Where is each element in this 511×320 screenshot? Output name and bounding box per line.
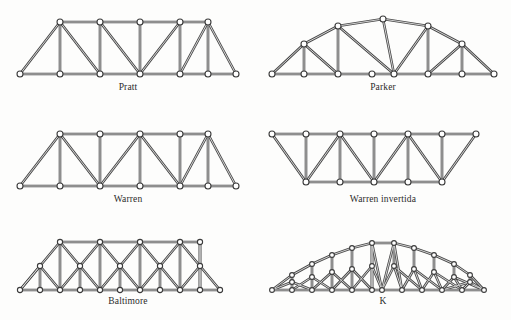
- truss-joint-l4: [177, 71, 183, 77]
- truss-joint-l9: [197, 287, 202, 292]
- truss-joint-u10: [468, 273, 473, 278]
- truss-member-core: [180, 266, 200, 290]
- truss-diagram-baltimore: [8, 230, 248, 298]
- truss-joint-l8: [177, 287, 182, 292]
- truss-joint-k8: [432, 270, 437, 275]
- truss-joint-u8: [432, 253, 437, 258]
- truss-joint-l3: [369, 71, 375, 77]
- truss-joint-k2: [310, 275, 315, 280]
- truss-member-core: [20, 266, 40, 290]
- truss-member-core: [60, 22, 100, 74]
- truss-joint-u4: [177, 239, 182, 244]
- truss-joint-m4: [157, 263, 162, 268]
- truss-joint-l2: [57, 287, 62, 292]
- truss-joint-l2: [97, 183, 103, 189]
- truss-joint-l1: [57, 183, 63, 189]
- truss-member-core: [340, 134, 374, 182]
- truss-member-core: [292, 264, 312, 275]
- truss-svg-parker: [262, 8, 504, 84]
- truss-joint-l3: [330, 288, 335, 293]
- truss-svg-warren: [8, 120, 248, 196]
- truss-member-core: [120, 242, 140, 266]
- truss-member-core: [40, 242, 60, 266]
- truss-joint-u3: [330, 253, 335, 258]
- truss-joint-l3: [137, 183, 143, 189]
- truss-member-core: [414, 248, 434, 255]
- truss-joint-l6: [137, 287, 142, 292]
- truss-member-core: [80, 266, 100, 290]
- truss-member-core: [428, 26, 462, 44]
- truss-joint-l5: [370, 288, 375, 293]
- truss-member-core: [180, 22, 208, 74]
- truss-svg-pratt: [8, 8, 248, 84]
- truss-joint-u0: [269, 131, 275, 137]
- truss-joint-l7: [400, 288, 405, 293]
- truss-joint-u1: [57, 239, 62, 244]
- truss-member-core: [60, 266, 80, 290]
- truss-joint-l0: [17, 183, 23, 189]
- truss-diagram-warren: [8, 120, 248, 196]
- truss-member-core: [60, 134, 100, 186]
- truss-member-core: [20, 22, 60, 74]
- truss-joint-k5: [370, 264, 375, 269]
- truss-member-core: [352, 243, 372, 248]
- truss-joint-l3: [137, 71, 143, 77]
- truss-joint-l5: [205, 183, 211, 189]
- truss-joint-u3: [137, 239, 142, 244]
- truss-caption-warren: Warren: [8, 194, 248, 204]
- truss-joint-u2: [310, 262, 315, 267]
- truss-joint-l8: [420, 288, 425, 293]
- truss-joint-l1: [303, 179, 309, 185]
- truss-diagram-k: [262, 230, 504, 298]
- truss-joint-l4: [97, 287, 102, 292]
- truss-joint-l0: [17, 71, 23, 77]
- truss-caption-parker: Parker: [262, 82, 504, 92]
- truss-svg-warren-invertida: [262, 120, 504, 196]
- truss-member-core: [462, 44, 494, 74]
- truss-joint-l4: [391, 71, 397, 77]
- truss-joint-k1: [290, 280, 295, 285]
- truss-joint-l6: [459, 71, 465, 77]
- truss-member-core: [402, 269, 414, 290]
- truss-joint-l10: [460, 288, 465, 293]
- truss-joint-u5: [459, 41, 465, 47]
- truss-joint-u7: [412, 246, 417, 251]
- truss-joint-u9: [452, 262, 457, 267]
- truss-diagram-warren-invertida: [262, 120, 504, 196]
- truss-member-core: [160, 242, 180, 266]
- truss-member-core: [374, 134, 408, 182]
- truss-joint-u4: [177, 19, 183, 25]
- truss-joint-u2: [97, 19, 103, 25]
- truss-joint-u1: [290, 273, 295, 278]
- truss-caption-k: K: [262, 296, 504, 306]
- truss-joint-u2: [337, 131, 343, 137]
- truss-member-core: [208, 22, 236, 74]
- truss-member-core: [304, 44, 338, 74]
- truss-member-core: [180, 242, 200, 266]
- truss-joint-u4: [350, 246, 355, 251]
- truss-members-outline: [272, 243, 484, 290]
- truss-joint-l2: [335, 71, 341, 77]
- truss-member-core: [100, 266, 120, 290]
- truss-joint-k6: [392, 264, 397, 269]
- truss-member-core: [272, 44, 304, 74]
- truss-joint-l9: [440, 288, 445, 293]
- truss-member-core: [100, 242, 120, 266]
- truss-joint-u3: [380, 16, 386, 22]
- truss-joint-u1: [301, 41, 307, 47]
- truss-joint-u1: [303, 131, 309, 137]
- truss-joint-l7: [491, 71, 497, 77]
- truss-joint-l5: [117, 287, 122, 292]
- truss-member-core: [140, 22, 180, 74]
- truss-member-core: [140, 242, 160, 266]
- truss-member-core: [100, 134, 140, 186]
- truss-joint-u4: [425, 23, 431, 29]
- truss-member-core: [120, 266, 140, 290]
- truss-joint-u6: [473, 131, 479, 137]
- truss-joint-l1: [301, 71, 307, 77]
- truss-joint-l2: [337, 179, 343, 185]
- truss-member-core: [408, 134, 442, 182]
- truss-joint-u5: [370, 241, 375, 246]
- truss-member-core: [20, 134, 60, 186]
- truss-joint-l1: [37, 287, 42, 292]
